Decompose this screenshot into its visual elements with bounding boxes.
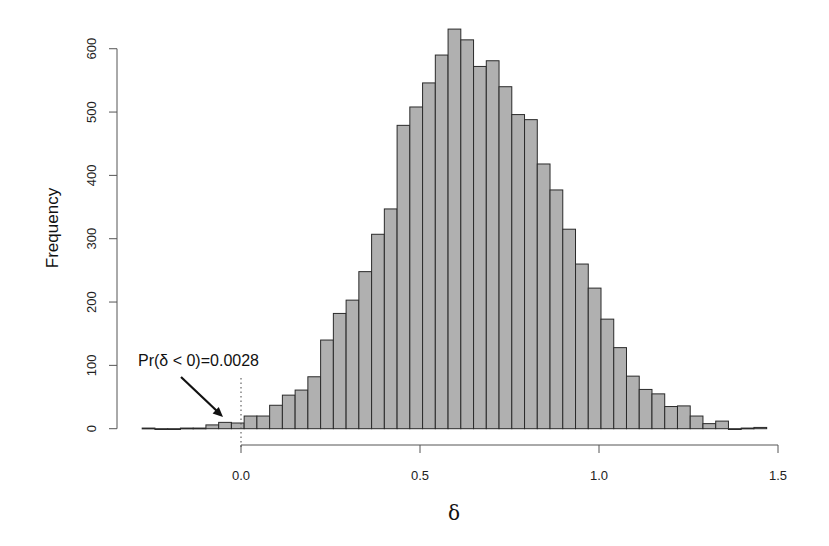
histogram-bar [308,377,321,429]
x-tick-label: 1.5 [769,468,787,483]
x-tick-label: 0.0 [232,468,250,483]
histogram-bar [512,115,525,429]
histogram-bar [206,425,219,429]
x-axis: 0.00.51.01.5 [232,445,787,483]
histogram-bar [333,313,346,428]
histogram-bar [639,389,652,428]
histogram-bar [652,394,665,429]
y-tick-label: 0 [84,425,99,432]
histogram-bar [282,395,295,429]
histogram-bar [525,120,538,429]
histogram-bar [321,340,334,429]
histogram-bar [665,407,678,429]
x-tick-label: 1.0 [590,468,608,483]
histogram-bar [550,190,563,429]
histogram-bar [295,390,308,429]
histogram-bar [563,229,576,428]
histogram-bars [142,29,766,429]
histogram-bar [219,422,232,428]
histogram-bar [601,319,614,429]
y-tick-label: 300 [84,228,99,250]
histogram-bar [168,429,181,430]
histogram-bar [690,416,703,429]
histogram-bar [741,428,754,429]
y-axis: 0100200300400500600 [84,38,117,432]
x-axis-title: δ [448,501,460,525]
histogram-bar [384,209,397,429]
histogram-bar [703,424,716,429]
y-tick-label: 600 [84,38,99,60]
histogram-bar [754,427,767,428]
y-tick-label: 200 [84,291,99,313]
histogram-bar [193,428,206,429]
histogram-bar [244,416,257,429]
histogram-bar [435,55,448,429]
y-axis-title: Frequency [43,187,62,268]
histogram-bar [346,300,359,429]
histogram-bar [499,87,512,429]
probability-annotation: Pr(δ < 0)=0.0028 [138,352,259,369]
histogram-bar [448,29,461,429]
histogram-bar [576,264,589,429]
histogram-chart: 0.00.51.01.5 0100200300400500600 Pr(δ < … [0,0,829,546]
histogram-bar [180,428,193,429]
histogram-bar [423,83,436,429]
histogram-bar [486,61,499,429]
x-tick-label: 0.5 [411,468,429,483]
histogram-bar [614,348,627,429]
histogram-bar [410,107,423,429]
y-tick-label: 400 [84,165,99,187]
histogram-bar [155,429,168,430]
y-tick-label: 500 [84,101,99,123]
histogram-bar [537,164,550,429]
histogram-bar [359,272,372,429]
histogram-bar [231,423,244,429]
histogram-bar [461,40,474,429]
histogram-bar [728,429,741,430]
histogram-bar [257,416,270,429]
histogram-bar [677,406,690,429]
histogram-bar [372,234,385,428]
annotation-arrow-icon [181,377,218,412]
histogram-bar [716,421,729,429]
histogram-bar [474,66,487,428]
y-tick-label: 100 [84,355,99,377]
histogram-bar [626,376,639,429]
histogram-bar [270,405,283,428]
histogram-bar [142,428,155,429]
histogram-bar [588,288,601,429]
histogram-bar [397,125,410,428]
